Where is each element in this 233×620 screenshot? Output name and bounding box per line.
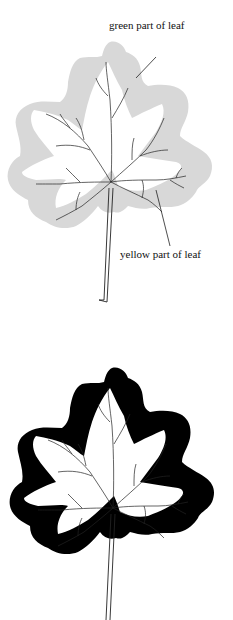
green-part-label: green part of leaf [109, 19, 184, 31]
bottom-leaf [10, 368, 214, 620]
top-leaf [8, 42, 212, 302]
yellow-part-label: yellow part of leaf [120, 248, 201, 260]
leaf-diagram [0, 0, 233, 620]
